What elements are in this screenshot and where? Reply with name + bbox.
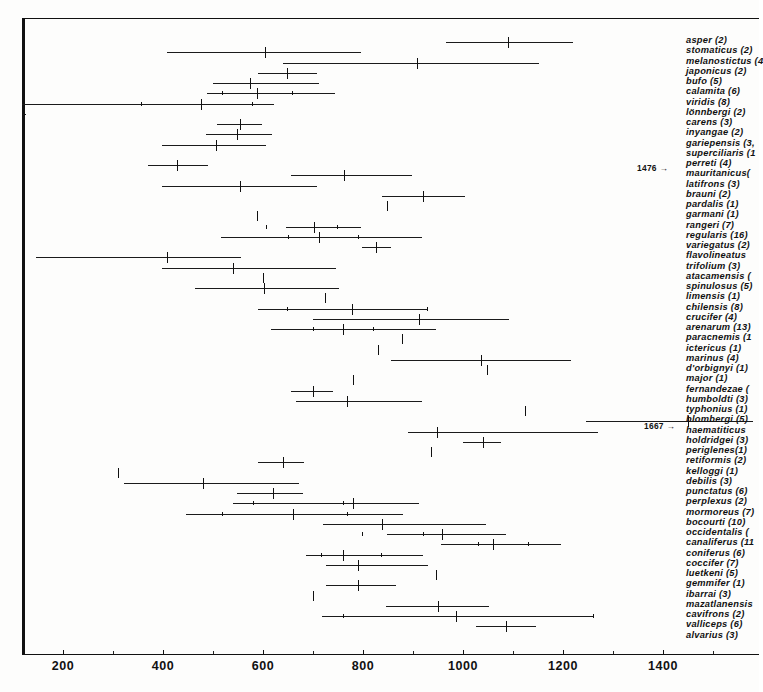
species-label: japonicus (2): [686, 66, 747, 76]
range-line: [441, 544, 561, 545]
species-label: debilis (3): [686, 476, 732, 486]
x-minor-tick-500: [213, 651, 214, 654]
species-label: spinulosus (5): [686, 281, 753, 291]
sd-tick: [292, 91, 293, 95]
range-line: [207, 93, 335, 94]
range-line: [323, 524, 486, 525]
species-label: perplexus (2): [686, 496, 747, 506]
species-label: inyangae (2): [686, 127, 743, 137]
species-label: d'orbignyi (1): [686, 363, 748, 373]
species-label: crucifer (4): [686, 312, 737, 322]
off-scale-annotation: 1667 →: [644, 421, 675, 431]
species-label: superciliaris (1: [686, 148, 756, 158]
x-tick-1200: [563, 650, 564, 655]
range-line: [221, 237, 423, 238]
range-line: [446, 42, 573, 43]
sd-tick: [423, 532, 424, 536]
species-label: stomaticus (2): [686, 45, 753, 55]
sd-tick: [288, 235, 289, 239]
sd-tick: [362, 532, 363, 536]
species-label: carens (3): [686, 117, 732, 127]
x-tick-label-200: 200: [52, 659, 74, 673]
species-label: perreti (4): [686, 158, 732, 168]
range-line: [463, 442, 501, 443]
sd-tick: [321, 553, 322, 557]
species-label: valliceps (6): [686, 619, 742, 629]
range-line: [258, 309, 428, 310]
x-minor-tick-1500: [713, 651, 714, 654]
species-label: blombergi (5): [686, 414, 748, 424]
x-tick-200: [63, 650, 64, 655]
species-label: viridis (8): [686, 97, 730, 107]
range-line: [387, 534, 506, 535]
species-label: retiformis (2): [686, 455, 746, 465]
range-line: [313, 319, 509, 320]
species-label: chilensis (8): [686, 302, 743, 312]
range-line: [271, 329, 436, 330]
sd-tick: [287, 307, 288, 311]
species-label: rangeri (7): [686, 220, 734, 230]
range-line: [291, 175, 413, 176]
species-label: bufo (5): [686, 76, 722, 86]
species-label: luetkeni (5): [686, 568, 738, 578]
range-line: [237, 493, 303, 494]
x-tick-400: [163, 650, 164, 655]
x-tick-label-600: 600: [252, 659, 274, 673]
species-label: haematiticus: [686, 425, 746, 435]
sd-tick: [343, 614, 344, 618]
x-minor-tick-300: [113, 651, 114, 654]
species-label: mazatlanensis: [686, 599, 753, 609]
x-tick-1000: [463, 650, 464, 655]
range-line: [213, 83, 319, 84]
species-label: alvarius (3): [686, 630, 738, 640]
species-label: calamita (6): [686, 86, 740, 96]
range-line: [22, 104, 274, 105]
sd-tick: [252, 102, 253, 106]
range-line: [36, 257, 241, 258]
species-label: mauritanicus(: [686, 168, 750, 178]
range-line: [258, 462, 304, 463]
species-label: major (1): [686, 373, 728, 383]
species-label: gemmifer (1): [686, 578, 745, 588]
range-line: [306, 555, 423, 556]
species-label: melanostictus (4: [686, 56, 763, 66]
species-label: occidentalis (: [686, 527, 749, 537]
range-line: [286, 227, 361, 228]
sd-tick: [347, 512, 348, 516]
range-line: [296, 401, 423, 402]
species-label: punctatus (6): [686, 486, 748, 496]
x-tick-1400: [663, 650, 664, 655]
species-label: humboldti (3): [686, 394, 748, 404]
range-line: [326, 585, 396, 586]
species-label: bocourti (10): [686, 517, 746, 527]
species-label: holdridgei (3): [686, 435, 748, 445]
range-line: [291, 391, 334, 392]
x-tick-label-800: 800: [352, 659, 374, 673]
species-label: ictericus (1): [686, 343, 741, 353]
species-label: canaliferus (11: [686, 537, 754, 547]
species-label: arenarum (13): [686, 322, 751, 332]
species-label: asper (2): [686, 35, 727, 45]
species-label: lönnbergi (2): [686, 107, 746, 117]
species-label: paracnemis (1: [686, 332, 752, 342]
species-label: coniferus (6): [686, 548, 745, 558]
species-label: typhonius (1): [686, 404, 748, 414]
x-tick-label-1000: 1000: [448, 659, 478, 673]
x-tick-600: [263, 650, 264, 655]
x-tick-label-400: 400: [152, 659, 174, 673]
species-label: gariepensis (3,: [686, 138, 755, 148]
sd-tick: [337, 225, 338, 229]
sd-tick: [427, 307, 428, 311]
sd-tick: [222, 91, 223, 95]
species-label: trifolium (3): [686, 261, 740, 271]
species-label: variegatus (2): [686, 240, 750, 250]
range-line: [148, 165, 208, 166]
range-line: [124, 483, 299, 484]
range-line: [195, 288, 340, 289]
range-line: [162, 145, 266, 146]
x-minor-tick-1100: [513, 651, 514, 654]
species-label: flavolineatus: [686, 250, 746, 260]
sd-tick: [381, 553, 382, 557]
sd-tick: [266, 225, 267, 229]
